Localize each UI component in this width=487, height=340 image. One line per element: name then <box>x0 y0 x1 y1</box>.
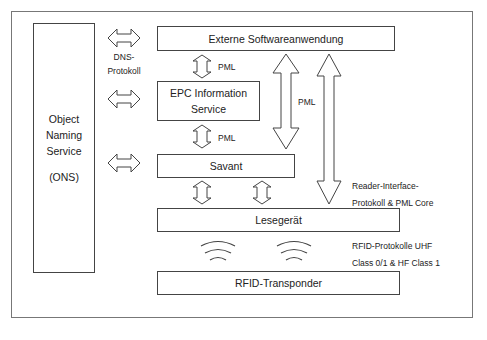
rfid-protocols-line2: Class 0/1 & HF Class 1 <box>352 255 440 272</box>
dns-label-line1: DNS- <box>104 50 144 64</box>
double-arrow-icon <box>193 55 211 78</box>
rfid-protocols-label: RFID-Protokolle UHF Class 0/1 & HF Class… <box>352 238 440 272</box>
double-arrow-icon <box>108 29 140 47</box>
double-arrow-icon <box>108 90 140 108</box>
dns-label-line2: Protokoll <box>104 64 144 78</box>
double-arrow-icon <box>108 154 140 172</box>
rfid-protocols-line1: RFID-Protokolle UHF <box>352 238 440 255</box>
pml-label-long: PML <box>298 95 315 109</box>
double-arrow-icon <box>193 125 211 148</box>
radio-wave-icon <box>277 242 311 261</box>
connectors-layer <box>0 0 487 340</box>
radio-wave-icon <box>201 242 235 261</box>
double-arrow-icon <box>193 181 211 204</box>
dns-protocol-label: DNS- Protokoll <box>104 50 144 78</box>
double-arrow-icon <box>253 181 271 204</box>
pml-label-top: PML <box>218 60 235 74</box>
reader-interface-line2: Protokoll & PML Core <box>352 195 433 212</box>
long-double-arrow-icon <box>317 54 341 204</box>
long-double-arrow-icon <box>273 54 299 149</box>
pml-label-middle: PML <box>218 131 235 145</box>
reader-interface-label: Reader-Interface- Protokoll & PML Core <box>352 178 433 212</box>
reader-interface-line1: Reader-Interface- <box>352 178 433 195</box>
